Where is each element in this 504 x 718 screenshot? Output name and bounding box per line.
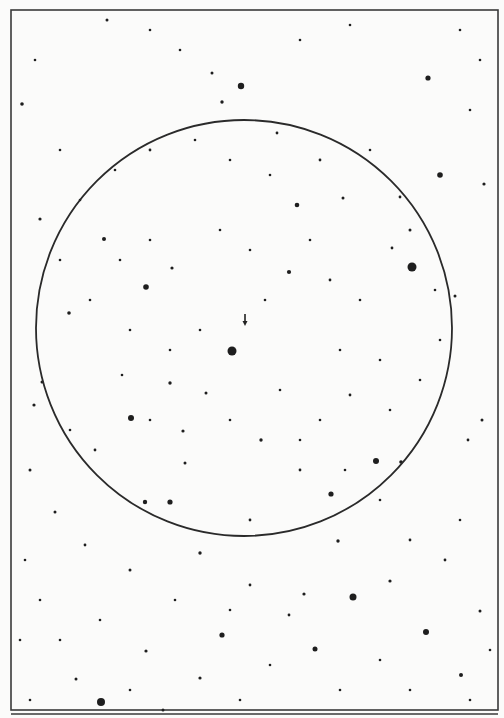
star	[454, 295, 457, 298]
star	[59, 149, 62, 152]
star	[249, 584, 252, 587]
star	[143, 284, 149, 290]
star	[198, 551, 201, 554]
star	[128, 415, 134, 421]
star	[19, 639, 22, 642]
star	[399, 196, 402, 199]
star	[67, 311, 71, 315]
star	[391, 247, 394, 250]
target-arrow-icon	[243, 314, 248, 326]
star	[419, 379, 422, 382]
star	[144, 649, 147, 652]
star	[328, 491, 333, 496]
star	[302, 592, 305, 595]
star	[469, 109, 472, 112]
star	[239, 699, 242, 702]
star	[287, 270, 291, 274]
star	[220, 100, 223, 103]
star	[409, 689, 412, 692]
star	[409, 539, 412, 542]
star	[279, 389, 282, 392]
star	[32, 403, 35, 406]
star	[336, 539, 339, 542]
star	[94, 449, 97, 452]
star	[143, 500, 147, 504]
star	[102, 237, 106, 241]
star	[162, 709, 165, 712]
star	[114, 169, 117, 172]
star	[389, 409, 392, 412]
star	[29, 469, 32, 472]
star	[249, 519, 252, 522]
field-of-view-circle	[36, 120, 452, 536]
star	[288, 614, 291, 617]
star	[444, 559, 447, 562]
star	[299, 439, 302, 442]
star	[469, 699, 472, 702]
star	[229, 419, 232, 422]
star	[205, 392, 208, 395]
star	[437, 172, 443, 178]
star	[229, 609, 232, 612]
star	[344, 469, 347, 472]
star-field	[19, 19, 492, 712]
star	[339, 349, 342, 352]
star	[481, 419, 484, 422]
star	[269, 174, 272, 177]
star	[149, 419, 152, 422]
star	[489, 649, 492, 652]
star	[342, 197, 345, 200]
star	[408, 263, 417, 272]
star	[388, 579, 391, 582]
star	[168, 381, 171, 384]
star	[149, 29, 152, 32]
star	[149, 239, 152, 242]
star	[350, 594, 357, 601]
star	[319, 419, 322, 422]
star	[69, 429, 72, 432]
chart-frame	[11, 10, 498, 710]
star	[425, 75, 430, 80]
star	[184, 462, 187, 465]
star-chart	[0, 0, 504, 718]
star	[299, 39, 302, 42]
star	[295, 203, 300, 208]
star	[349, 394, 352, 397]
star	[75, 678, 78, 681]
star	[482, 182, 485, 185]
star	[181, 429, 184, 432]
star	[59, 639, 62, 642]
star	[129, 689, 132, 692]
star	[119, 259, 122, 262]
star	[121, 374, 124, 377]
star	[229, 159, 232, 162]
star	[349, 24, 352, 27]
star	[238, 83, 244, 89]
star	[54, 511, 57, 514]
star	[38, 217, 41, 220]
star	[439, 339, 442, 342]
star	[129, 569, 132, 572]
star	[359, 299, 362, 302]
star	[369, 149, 372, 152]
star	[379, 359, 382, 362]
star	[339, 689, 342, 692]
star	[319, 159, 322, 162]
star	[97, 698, 105, 706]
star	[479, 610, 482, 613]
star	[459, 519, 462, 522]
star	[219, 229, 222, 232]
star	[269, 664, 272, 667]
star	[379, 499, 382, 502]
star	[106, 19, 109, 22]
star	[423, 629, 429, 635]
star	[379, 659, 382, 662]
star	[199, 329, 202, 332]
star	[39, 599, 42, 602]
star	[459, 673, 463, 677]
star	[174, 599, 177, 602]
star	[29, 699, 32, 702]
star	[20, 102, 24, 106]
star	[149, 149, 152, 152]
star	[167, 499, 172, 504]
